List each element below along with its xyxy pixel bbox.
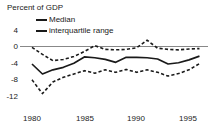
series-line-75th-percentile	[32, 40, 199, 60]
plot-area	[0, 0, 215, 131]
series-line-median	[32, 56, 199, 74]
series-layer	[32, 40, 199, 93]
chart-figure: Percent of GDP Median interquartile rang…	[0, 0, 215, 131]
